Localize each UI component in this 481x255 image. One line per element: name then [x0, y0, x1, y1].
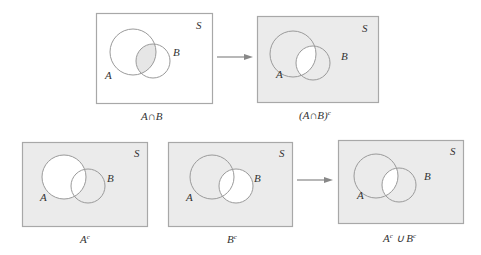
universe-box [339, 141, 464, 224]
panel-caption: Bc [227, 233, 238, 245]
set-b-label: B [254, 172, 261, 184]
universe-label: S [134, 147, 140, 159]
arrow-right-icon [217, 54, 253, 60]
set-a-label: A [104, 69, 112, 81]
universe-box [258, 17, 379, 103]
set-b-label: B [173, 46, 180, 58]
universe-label: S [450, 145, 456, 157]
set-a-label: A [356, 189, 364, 201]
set-a-label: A [39, 191, 47, 203]
panel-complement-of-intersection: S A B (A∩B)c [258, 17, 379, 123]
panel-caption: Ac ∪ Bc [382, 232, 417, 244]
venn-diagram-figure: S A B A∩B S A B (A∩B)c S A B Ac S A [0, 0, 481, 255]
panel-a-complement: S A B Ac [23, 143, 148, 246]
set-b-label: B [424, 170, 431, 182]
panel-a-intersect-b: S A B A∩B [97, 14, 213, 123]
set-b-label: B [107, 172, 114, 184]
panel-b-complement: S A B Bc [169, 143, 293, 246]
universe-label: S [196, 19, 202, 31]
set-b-label: B [341, 50, 348, 62]
panel-caption: Ac [79, 233, 91, 245]
set-a-label: A [185, 191, 193, 203]
panel-caption: (A∩B)c [299, 109, 332, 122]
panel-union-of-complements: S A B Ac ∪ Bc [339, 141, 464, 245]
universe-label: S [362, 22, 368, 34]
universe-label: S [279, 147, 285, 159]
panel-caption: A∩B [140, 110, 163, 122]
set-a-label: A [275, 68, 283, 80]
arrow-right-icon [297, 177, 333, 183]
